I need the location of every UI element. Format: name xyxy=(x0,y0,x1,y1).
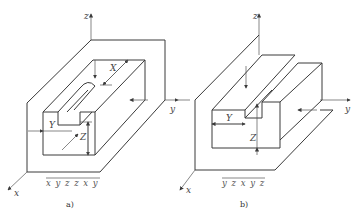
block-front-a xyxy=(43,112,95,155)
x-axis-label-a: x xyxy=(14,188,19,198)
x-axis-label-b: x xyxy=(186,185,191,195)
z-axis-label-a: z xyxy=(83,11,89,21)
y-axis-label-a: y xyxy=(169,104,176,114)
back-plane-a xyxy=(91,40,165,100)
dim-z-label-a: Z xyxy=(79,132,87,142)
diagram-canvas: z y x X xyxy=(0,0,356,215)
z-axis-label-b: z xyxy=(252,11,258,21)
caption-a: a) xyxy=(66,200,74,209)
dim-y-label-b: Y xyxy=(226,113,233,123)
side-plane-a xyxy=(27,40,91,172)
dim-y-label-a: Y xyxy=(49,120,56,130)
slot-end-a xyxy=(74,82,95,110)
y-axis-label-b: y xyxy=(344,104,351,114)
side-plane-b xyxy=(195,35,259,170)
dim-z-label-b: Z xyxy=(249,133,257,143)
base-plane-b xyxy=(195,110,333,170)
dim-x-label-a: X xyxy=(109,63,117,73)
caption-b: b) xyxy=(240,200,248,209)
sequence-label-a: x y z z x y xyxy=(46,178,99,188)
sequence-label-b: y z x y z xyxy=(221,178,265,188)
figure-a: z y x X xyxy=(8,11,178,209)
figure-b: z y x Y xyxy=(178,11,351,209)
